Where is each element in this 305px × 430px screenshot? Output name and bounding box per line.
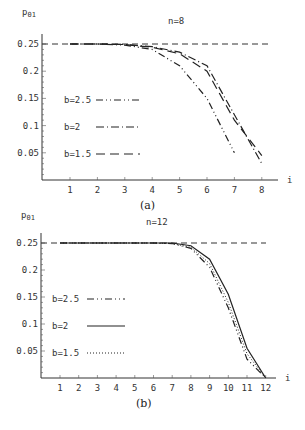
y-tick-label: 0.25	[16, 238, 38, 248]
x-tick-label: 1	[67, 185, 72, 195]
y-tick-label: 0.2	[23, 66, 39, 76]
x-tick-label: 12	[260, 383, 271, 393]
x-tick-label: 4	[149, 185, 154, 195]
legend-label: b=1.5	[64, 149, 91, 159]
x-tick-label: 9	[207, 383, 212, 393]
x-tick-label: 8	[188, 383, 193, 393]
x-tick-label: 1	[57, 383, 62, 393]
y-tick-label: 0.15	[16, 292, 38, 302]
chart-a: 0.250.20.150.10.0512345678ip01n=8(a)b=2.…	[17, 7, 292, 212]
chart-caption: (a)	[140, 199, 155, 212]
legend-label: b=2	[64, 122, 80, 132]
y-tick-label: 0.05	[16, 346, 38, 356]
y-tick-label: 0.25	[17, 39, 39, 49]
series-line	[60, 243, 266, 378]
y-tick-label: 0.1	[23, 121, 39, 131]
x-tick-label: 11	[242, 383, 253, 393]
chart-b: 0.250.20.150.10.05123456789101112ip01n=1…	[16, 210, 290, 410]
chart-title: n=12	[146, 217, 168, 227]
legend-label: b=2.5	[64, 95, 91, 105]
series-line	[60, 243, 266, 378]
series-line	[70, 44, 262, 164]
series-line	[70, 44, 234, 153]
chart-title: n=8	[168, 16, 184, 26]
x-tick-label: 8	[259, 185, 264, 195]
x-tick-label: 7	[232, 185, 237, 195]
x-tick-label: 3	[122, 185, 127, 195]
y-tick-label: 0.2	[22, 265, 38, 275]
legend-label: b=2.5	[52, 294, 79, 304]
legend-label: b=2	[52, 321, 68, 331]
x-tick-label: 3	[95, 383, 100, 393]
x-axis-label: i	[287, 175, 292, 185]
x-axis-label: i	[285, 373, 290, 383]
x-tick-label: 6	[151, 383, 156, 393]
legend-label: b=1.5	[52, 348, 79, 358]
x-tick-label: 6	[204, 185, 209, 195]
y-axis-label: p01	[22, 7, 36, 19]
y-axis-label: p01	[21, 210, 35, 222]
x-tick-label: 10	[223, 383, 234, 393]
x-tick-label: 5	[177, 185, 182, 195]
x-tick-label: 2	[76, 383, 81, 393]
y-tick-label: 0.15	[17, 93, 39, 103]
x-tick-label: 4	[113, 383, 118, 393]
x-tick-label: 2	[95, 185, 100, 195]
x-tick-label: 5	[132, 383, 137, 393]
figure: 0.250.20.150.10.0512345678ip01n=8(a)b=2.…	[0, 0, 305, 430]
x-tick-label: 7	[169, 383, 174, 393]
series-line	[60, 243, 266, 378]
y-tick-label: 0.1	[22, 319, 38, 329]
y-tick-label: 0.05	[17, 148, 39, 158]
chart-caption: (b)	[136, 397, 152, 410]
